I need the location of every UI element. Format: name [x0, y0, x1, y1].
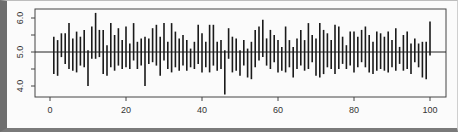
y-tick-label: 6.0	[15, 12, 25, 25]
x-tick-label: 40	[197, 105, 207, 115]
segment-chart: 020406080100 4.05.06.0	[0, 0, 458, 132]
y-axis: 4.05.06.0	[15, 12, 35, 93]
y-tick-label: 5.0	[15, 46, 25, 59]
x-tick-label: 20	[121, 105, 131, 115]
y-tick-label: 4.0	[15, 80, 25, 93]
x-axis: 020406080100	[47, 97, 437, 115]
x-tick-label: 0	[47, 105, 52, 115]
x-tick-label: 60	[273, 105, 283, 115]
segments-group	[54, 13, 430, 95]
x-tick-label: 100	[422, 105, 437, 115]
x-tick-label: 80	[349, 105, 359, 115]
